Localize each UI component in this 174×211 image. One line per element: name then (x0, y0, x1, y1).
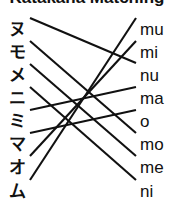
katakana-label-0: ヌ (9, 20, 26, 39)
page-title-text: Katakana Matching (0, 0, 174, 6)
romaji-label-6: me (140, 158, 164, 177)
romaji-label-4: o (140, 112, 149, 131)
katakana-item-1[interactable]: モ (4, 41, 30, 64)
romaji-label-2: nu (140, 66, 159, 85)
katakana-label-4: ミ (9, 112, 26, 131)
connection-line (30, 64, 136, 156)
katakana-item-3[interactable]: ニ (4, 87, 30, 110)
matching-exercise: ヌ モ メ ニ ミ マ オ ム mu mi nu ma o mo me ni (0, 7, 174, 211)
romaji-item-2[interactable]: nu (140, 64, 174, 87)
katakana-label-6: オ (9, 158, 26, 177)
romaji-item-0[interactable]: mu (140, 18, 174, 41)
katakana-item-7[interactable]: ム (4, 180, 30, 203)
katakana-label-3: ニ (9, 89, 26, 108)
romaji-item-4[interactable]: o (140, 110, 174, 133)
connection-line (30, 18, 136, 180)
romaji-item-1[interactable]: mi (140, 41, 174, 64)
romaji-label-7: ni (140, 182, 153, 201)
romaji-item-7[interactable]: ni (140, 180, 174, 203)
connection-line (30, 110, 136, 133)
katakana-item-2[interactable]: メ (4, 64, 30, 87)
katakana-label-1: モ (9, 43, 26, 62)
romaji-item-3[interactable]: ma (140, 87, 174, 110)
romaji-item-6[interactable]: me (140, 156, 174, 179)
worksheet-screen: Katakana Matching ヌ モ メ ニ ミ マ オ ム mu mi … (0, 0, 174, 211)
romaji-label-3: ma (140, 89, 164, 108)
connection-line (30, 41, 136, 133)
katakana-item-6[interactable]: オ (4, 156, 30, 179)
katakana-label-7: ム (9, 182, 26, 201)
romaji-label-0: mu (140, 20, 164, 39)
katakana-item-5[interactable]: マ (4, 133, 30, 156)
katakana-item-4[interactable]: ミ (4, 110, 30, 133)
connection-line (30, 87, 136, 180)
katakana-column: ヌ モ メ ニ ミ マ オ ム (0, 7, 30, 211)
romaji-item-5[interactable]: mo (140, 133, 174, 156)
romaji-label-5: mo (140, 135, 164, 154)
romaji-label-1: mi (140, 43, 158, 62)
romaji-column: mu mi nu ma o mo me ni (140, 7, 174, 211)
page-title: Katakana Matching (0, 0, 174, 7)
katakana-item-0[interactable]: ヌ (4, 18, 30, 41)
katakana-label-2: メ (9, 66, 26, 85)
katakana-label-5: マ (9, 135, 26, 154)
